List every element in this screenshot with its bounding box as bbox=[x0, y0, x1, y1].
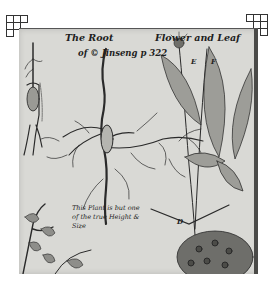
plate-edge bbox=[254, 29, 258, 274]
ginseng-illustration bbox=[19, 29, 258, 274]
figure-label-f: F bbox=[211, 57, 216, 66]
engraving-plate: The Root Flower and Leaf of © Jinseng p … bbox=[19, 28, 258, 274]
size-caption: This Plant is but one of the true Height… bbox=[72, 204, 142, 231]
title-root: The Root bbox=[65, 32, 113, 43]
figure-label-e: E bbox=[191, 57, 196, 66]
title-flower-leaf: Flower and Leaf bbox=[155, 32, 240, 43]
figure-label-d: D bbox=[177, 217, 183, 226]
title-jinseng: of © Jinseng p 322 bbox=[78, 48, 167, 58]
